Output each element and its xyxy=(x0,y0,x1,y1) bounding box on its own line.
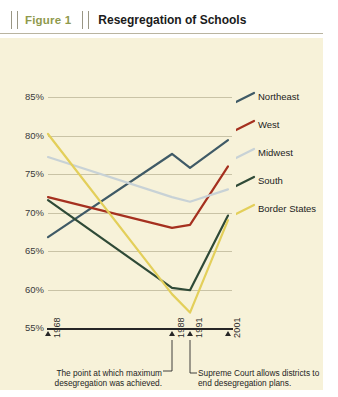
annotation-leader-lines xyxy=(0,38,323,390)
figure-container: Figure 1 Resegregation of Schools 85%80%… xyxy=(0,0,338,397)
figure-number-label: Figure 1 xyxy=(25,14,71,26)
annotation-max-desegregation: The point at which maximum desegregation… xyxy=(30,368,162,389)
figure-header: Figure 1 Resegregation of Schools xyxy=(0,6,323,34)
leader-line-left xyxy=(163,340,172,371)
chart-panel: 85%80%75%70%65%60%55% 1968198819912001 N… xyxy=(0,38,323,390)
annotation-supreme-court: Supreme Court allows districts to end de… xyxy=(198,368,320,389)
figure-title: Resegregation of Schools xyxy=(98,13,246,27)
double-rule-icon xyxy=(11,11,18,29)
double-rule-divider-icon xyxy=(82,11,89,29)
leader-line-right xyxy=(190,340,197,373)
